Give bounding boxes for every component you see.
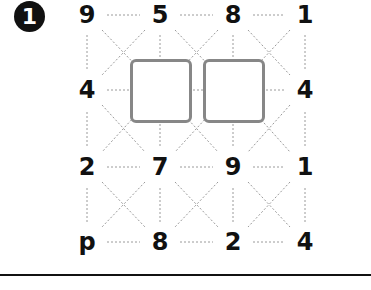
grid-cell-r1c0: 4 [72, 76, 102, 104]
grid-cell-r3c0: p [72, 228, 102, 256]
grid-cell-r0c3: 1 [290, 1, 320, 29]
grid-cell-r2c1: 7 [145, 153, 175, 181]
grid-cell-r0c0: 9 [72, 1, 102, 29]
grid-cell-r3c2: 2 [218, 228, 248, 256]
section-divider [0, 274, 371, 276]
answer-box-1[interactable] [130, 59, 192, 123]
grid-cell-r2c2: 9 [218, 153, 248, 181]
grid-cell-r1c3: 4 [290, 76, 320, 104]
grid-cell-r3c3: 4 [290, 228, 320, 256]
answer-box-2[interactable] [203, 59, 265, 123]
grid-cell-r3c1: 8 [145, 228, 175, 256]
grid-cell-r2c3: 1 [290, 153, 320, 181]
grid-cell-r2c0: 2 [72, 153, 102, 181]
grid-cell-r0c2: 8 [218, 1, 248, 29]
grid-cell-r0c1: 5 [145, 1, 175, 29]
